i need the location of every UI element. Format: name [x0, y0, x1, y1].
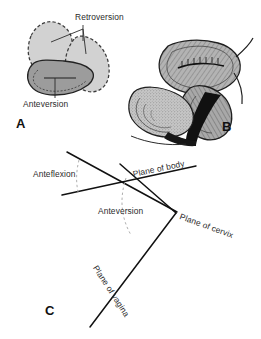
label-anteflexion: Anteflexion	[33, 170, 76, 178]
panel-letter-c: C	[45, 304, 54, 317]
label-anteversion-panel-c: Anteversion	[98, 207, 143, 215]
figure-root: Retroversion Anteversion A	[0, 0, 261, 339]
anteflexion-angle-arc	[77, 160, 79, 192]
plane-of-body-line	[62, 166, 196, 195]
